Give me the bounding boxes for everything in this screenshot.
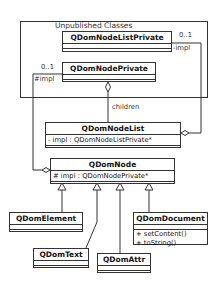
class-name: QDomNodeList <box>46 123 180 135</box>
operations-compartment <box>46 146 180 150</box>
class-qdomnodelistprivate[interactable]: QDomNodeListPrivate <box>62 31 172 52</box>
class-name: QDomText <box>34 249 88 261</box>
operations-compartment <box>10 230 82 234</box>
class-qdomattr[interactable]: QDomAttr <box>97 253 151 273</box>
role-label: #impl <box>34 75 54 83</box>
class-qdomtext[interactable]: QDomText <box>33 248 89 268</box>
class-qdomnode[interactable]: QDomNode # impl : QDomNodePrivate* <box>50 158 175 184</box>
operations-compartment <box>34 266 88 270</box>
operations-compartment <box>98 271 150 275</box>
multiplicity-label: 0..1 <box>179 31 192 39</box>
multiplicity-label: 0..1 <box>41 63 54 71</box>
association-label: children <box>112 103 139 111</box>
attribute: # impl : QDomNodePrivate* <box>51 171 174 182</box>
package-label: Unpublished Classes <box>55 21 132 30</box>
class-name: QDomDocument <box>134 213 207 225</box>
class-name: QDomAttr <box>98 254 150 266</box>
operations-compartment: + setContent() + toString() <box>134 230 207 248</box>
operations-compartment <box>63 80 155 84</box>
class-name: QDomNode <box>51 159 174 171</box>
class-name: QDomNodeListPrivate <box>63 32 171 44</box>
class-qdomnodeprivate[interactable]: QDomNodePrivate <box>62 62 156 82</box>
operation: + toString() <box>136 239 207 248</box>
attribute: - impl : QDomNodeListPrivate* <box>46 135 180 146</box>
uml-class-diagram: Unpublished Classes QDomNodeListPrivate … <box>0 0 221 289</box>
class-qdomdocument[interactable]: QDomDocument + setContent() + toString() <box>133 212 208 245</box>
class-qdomnodelist[interactable]: QDomNodeList - impl : QDomNodeListPrivat… <box>45 122 181 148</box>
operations-compartment <box>63 49 171 53</box>
class-name: QDomNodePrivate <box>63 63 155 75</box>
role-label: -impl <box>173 44 190 52</box>
operations-compartment <box>51 182 174 186</box>
class-name: QDomElement <box>10 213 82 225</box>
class-qdomelement[interactable]: QDomElement <box>9 212 83 232</box>
operation: + setContent() <box>136 230 207 239</box>
